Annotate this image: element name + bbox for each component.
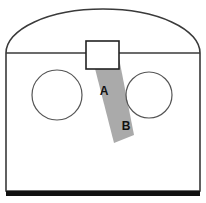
top-rectangle-shape xyxy=(86,41,119,69)
base-bar-shape xyxy=(6,191,200,196)
background-rect xyxy=(0,0,206,203)
label-a: A xyxy=(100,84,109,98)
diagram-canvas: A B xyxy=(0,0,206,203)
label-b: B xyxy=(122,119,131,133)
figure-container: A B xyxy=(0,0,206,203)
